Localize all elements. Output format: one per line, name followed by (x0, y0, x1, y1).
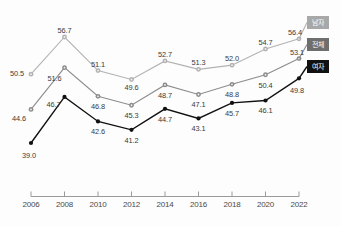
data-label: 52.7 (158, 51, 172, 58)
data-label: 45.3 (125, 112, 139, 119)
data-label: 46.8 (91, 103, 105, 110)
legend-item-female[interactable]: 여자 (307, 60, 329, 73)
x-axis (31, 192, 299, 197)
data-point-center (64, 36, 66, 38)
data-label: 49.8 (290, 87, 304, 94)
data-point-center (265, 74, 267, 76)
data-point[interactable] (196, 116, 200, 120)
data-label: 48.7 (158, 92, 172, 99)
data-label: 46.7 (47, 101, 61, 108)
data-label: 56.4 (288, 29, 302, 36)
legend-item-male[interactable]: 남자 (307, 16, 329, 29)
data-label: 51.6 (48, 75, 62, 82)
x-tick-label: 2014 (157, 201, 174, 209)
legend-item-total[interactable]: 전체 (307, 38, 329, 51)
data-label: 45.7 (225, 110, 239, 117)
data-point-center (30, 109, 32, 111)
data-point[interactable] (263, 98, 267, 102)
data-label: 54.7 (259, 39, 273, 46)
data-label: 50.4 (259, 82, 273, 89)
legend-label-female: 여자 (312, 63, 323, 70)
data-point[interactable] (129, 128, 133, 132)
data-label: 47.1 (192, 101, 206, 108)
data-point-center (164, 84, 166, 86)
data-point-center (30, 73, 32, 75)
data-label: 42.6 (91, 128, 105, 135)
data-point[interactable] (96, 119, 100, 123)
data-point-center (131, 104, 133, 106)
data-label: 51.1 (91, 61, 105, 68)
data-point-center (97, 70, 99, 72)
x-axis-ticks (31, 192, 299, 197)
data-label: 46.1 (259, 107, 273, 114)
data-point-center (265, 48, 267, 50)
data-label: 41.2 (125, 137, 139, 144)
data-label: 49.6 (125, 84, 139, 91)
x-tick-label: 2020 (257, 201, 274, 209)
data-point-center (198, 68, 200, 70)
x-tick-label: 2008 (56, 201, 73, 209)
chart-page: 50.556.751.149.652.751.352.054.756.444.6… (0, 0, 341, 226)
x-tick-label: 2016 (190, 201, 207, 209)
data-label: 52.0 (225, 55, 239, 62)
x-tick-label: 2006 (23, 201, 40, 209)
data-label: 53.1 (290, 49, 304, 56)
data-point[interactable] (230, 101, 234, 105)
data-point[interactable] (62, 95, 66, 99)
x-tick-label: 2010 (90, 201, 107, 209)
x-tick-label: 2018 (224, 201, 241, 209)
data-label: 50.5 (10, 70, 24, 77)
data-label: 39.0 (22, 152, 36, 159)
data-label: 43.1 (192, 125, 206, 132)
data-point-center (231, 64, 233, 66)
data-point-center (97, 95, 99, 97)
data-point-center (131, 79, 133, 81)
x-tick-label: 2012 (123, 201, 140, 209)
legend-connector-2 (299, 67, 307, 79)
data-label: 44.7 (158, 116, 172, 123)
data-label: 51.3 (192, 59, 206, 66)
data-point-center (198, 94, 200, 96)
x-tick-label: 2022 (291, 201, 308, 209)
data-point-center (64, 67, 66, 69)
legend-label-total: 전체 (312, 41, 323, 48)
data-point[interactable] (29, 141, 33, 145)
data-label: 48.8 (225, 91, 239, 98)
data-point-center (231, 83, 233, 85)
data-point[interactable] (163, 107, 167, 111)
data-label: 44.6 (12, 115, 26, 122)
data-label: 56.7 (58, 27, 72, 34)
legend-label-male: 남자 (312, 19, 323, 26)
data-point-center (164, 60, 166, 62)
